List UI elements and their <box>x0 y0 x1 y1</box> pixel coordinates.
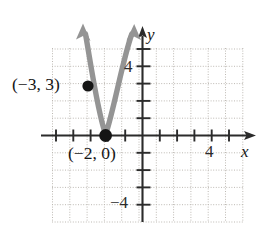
y-tick-label-neg4: −4 <box>110 194 128 211</box>
x-tick-label-4: 4 <box>205 143 214 160</box>
figure-container: y x 4 −4 4 (−3, 3) (−2, 0) <box>0 0 263 229</box>
plot-point-neg2-0 <box>99 129 112 142</box>
y-axis-label: y <box>147 26 155 43</box>
plot-point-neg3-3 <box>82 80 93 91</box>
x-axis-label: x <box>241 143 249 160</box>
y-tick-label-4: 4 <box>124 58 133 75</box>
point-label-neg3-3: (−3, 3) <box>12 76 60 94</box>
point-label-neg2-0: (−2, 0) <box>68 145 116 163</box>
coordinate-plane-graph <box>0 0 263 229</box>
